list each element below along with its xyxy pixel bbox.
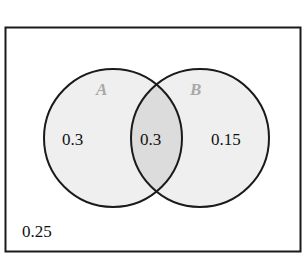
venn-diagram: A B 0.3 0.3 0.15 0.25 [0, 0, 306, 256]
intersection-value: 0.3 [140, 130, 161, 149]
a-only-value: 0.3 [62, 130, 83, 149]
b-only-value: 0.15 [211, 130, 241, 149]
set-a-label: A [95, 80, 107, 99]
outside-value: 0.25 [22, 222, 52, 241]
set-b-label: B [189, 80, 201, 99]
